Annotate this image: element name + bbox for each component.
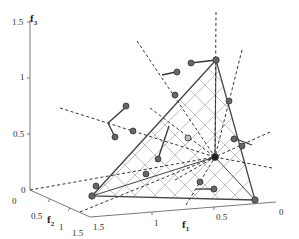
point (213, 57, 219, 63)
f1-axis-label: f1 (182, 218, 190, 233)
x-tick-1.5: 1.5 (93, 222, 105, 232)
pareto-front-3d-plot: 1.5 1 0.5 0 0 0.5 1 1.5 1.5 1 0.5 0 f3 f… (0, 0, 299, 239)
z-tick-1: 1 (20, 72, 25, 82)
y-tick-1: 1 (59, 222, 64, 232)
f2-axis-label: f2 (47, 213, 55, 228)
point (89, 193, 95, 199)
z-tick-0: 0 (21, 185, 26, 195)
point (174, 69, 180, 75)
point (172, 92, 178, 98)
point (252, 197, 258, 203)
point (231, 136, 237, 142)
z-tick-0.5: 0.5 (13, 129, 25, 139)
point (212, 154, 219, 161)
y-tick-1.5: 1.5 (72, 228, 84, 238)
point (197, 179, 203, 185)
point (188, 60, 194, 66)
point (226, 98, 232, 104)
f3-axis-label: f3 (30, 12, 38, 27)
point (185, 135, 191, 141)
y-tick-0: 0 (12, 196, 17, 206)
y-tick-0.5: 0.5 (31, 211, 43, 221)
z-tick-1.5: 1.5 (12, 17, 24, 27)
point (130, 128, 136, 134)
x-tick-0: 0 (279, 207, 284, 217)
f1-axis-line (90, 202, 276, 217)
point (211, 186, 217, 192)
point (112, 134, 118, 140)
point (123, 103, 129, 109)
x-tick-1: 1 (154, 218, 159, 228)
point (143, 171, 149, 177)
point (93, 183, 99, 189)
x-tick-0.5: 0.5 (216, 212, 228, 222)
point (155, 156, 161, 162)
point (239, 143, 245, 149)
